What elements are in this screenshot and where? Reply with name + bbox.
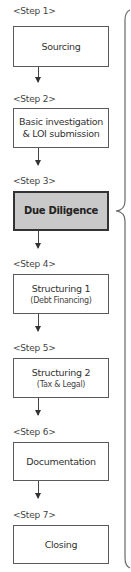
curly-brace-icon	[0, 0, 131, 572]
